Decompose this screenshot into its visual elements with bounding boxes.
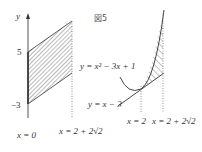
y-axis-arrow-icon (26, 13, 30, 19)
boundary-label-x2: x = 2 (126, 116, 147, 126)
line-label: y = x − 3 (87, 99, 122, 109)
left-panel: y 5 −3 x = 0 x = 2 + 2√2 (11, 11, 103, 140)
tick-label-5: 5 (17, 47, 22, 57)
figure-title: 図5 (94, 14, 107, 23)
right-panel: y = x² − 3x + 1 y = x − 3 x = 2 x = 2 + … (79, 10, 196, 126)
boundary-label-x0: x = 0 (16, 130, 37, 140)
boundary-label-x-right: x = 2 + 2√2 (58, 126, 103, 136)
y-axis-label: y (15, 11, 20, 21)
figure-5-diagram: 図5 y 5 −3 x = 0 x = 2 + 2√2 y = x² − 3x … (0, 0, 202, 152)
shaded-parallelogram (28, 21, 72, 104)
parabola-label: y = x² − 3x + 1 (79, 61, 135, 71)
tick-label-neg3: −3 (11, 100, 21, 110)
shaded-region (141, 13, 163, 89)
parabola-curve (120, 10, 164, 91)
boundary-label-x-right-2: x = 2 + 2√2 (151, 116, 196, 126)
